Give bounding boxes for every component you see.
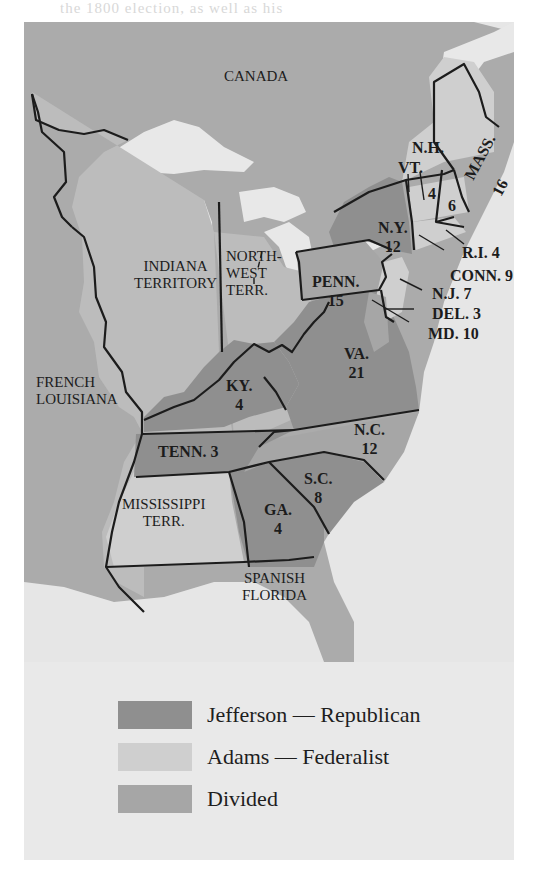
french-louisiana-line1: FRENCH	[36, 374, 118, 391]
vt-label: VT.	[398, 158, 423, 177]
ny-abbr: N.Y.	[378, 218, 408, 237]
tenn-label: TENN. 3	[158, 442, 218, 461]
ny-votes: 12	[378, 237, 408, 256]
conn-label: CONN. 9	[450, 266, 513, 285]
mississippi-line2: TERR.	[122, 513, 205, 530]
northwest-territory-label: NORTH- WEST TERR.	[226, 248, 282, 299]
spanish-florida-line1: SPANISH	[242, 570, 307, 587]
penn-abbr: PENN.	[312, 272, 360, 291]
ny-label: N.Y. 12	[378, 218, 408, 256]
del-label: DEL. 3	[432, 304, 481, 323]
legend-swatch-adams	[118, 743, 192, 771]
nh-label: N.H.	[412, 138, 444, 157]
sc-votes: 8	[304, 488, 332, 507]
french-louisiana-line2: LOUISIANA	[36, 391, 118, 408]
sc-abbr: S.C.	[304, 469, 332, 488]
northwest-label-line2: WEST	[226, 265, 282, 282]
legend-label-divided: Divided	[207, 786, 278, 812]
header-partial-text: the 1800 election, as well as his	[60, 0, 480, 18]
canada-label: CANADA	[224, 68, 288, 85]
va-votes: 21	[344, 363, 369, 382]
spanish-florida-label: SPANISH FLORIDA	[242, 570, 307, 604]
ga-abbr: GA.	[264, 500, 292, 519]
northwest-label-line3: TERR.	[226, 282, 282, 299]
northwest-label-line1: NORTH-	[226, 248, 282, 265]
french-louisiana-label: FRENCH LOUISIANA	[36, 374, 118, 408]
penn-votes: 15	[312, 291, 360, 310]
nc-votes: 12	[354, 439, 385, 458]
ri-label: R.I. 4	[462, 243, 500, 262]
ky-votes: 4	[226, 395, 253, 414]
va-label: VA. 21	[344, 344, 369, 382]
map-legend: Jefferson — Republican Adams — Federalis…	[118, 694, 420, 820]
nc-abbr: N.C.	[354, 420, 385, 439]
ga-votes: 4	[264, 519, 292, 538]
penn-label: PENN. 15	[312, 272, 360, 310]
indiana-label-line2: TERRITORY	[134, 275, 217, 292]
legend-swatch-divided	[118, 785, 192, 813]
nh-votes: 6	[448, 196, 456, 215]
legend-swatch-jefferson	[118, 701, 192, 729]
indiana-territory-label: INDIANA TERRITORY	[134, 258, 217, 292]
ga-label: GA. 4	[264, 500, 292, 538]
sc-label: S.C. 8	[304, 469, 332, 507]
legend-item-adams: Adams — Federalist	[118, 736, 420, 778]
legend-item-divided: Divided	[118, 778, 420, 820]
nc-label: N.C. 12	[354, 420, 385, 458]
md-label: MD. 10	[428, 324, 479, 343]
mississippi-line1: MISSISSIPPI	[122, 496, 205, 513]
ky-abbr: KY.	[226, 376, 253, 395]
legend-label-adams: Adams — Federalist	[207, 744, 389, 770]
nj-label: N.J. 7	[432, 284, 472, 303]
vt-votes: 4	[428, 184, 436, 203]
va-abbr: VA.	[344, 344, 369, 363]
legend-label-jefferson: Jefferson — Republican	[207, 702, 420, 728]
legend-item-jefferson: Jefferson — Republican	[118, 694, 420, 736]
indiana-label-line1: INDIANA	[134, 258, 217, 275]
ky-label: KY. 4	[226, 376, 253, 414]
mississippi-territory-label: MISSISSIPPI TERR.	[122, 496, 205, 530]
spanish-florida-line2: FLORIDA	[242, 587, 307, 604]
